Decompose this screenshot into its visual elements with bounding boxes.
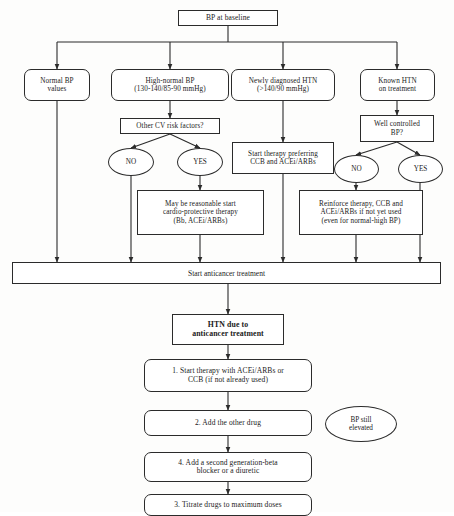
node-step-4-add-beta-blocker-or-diuretic[interactable]: 4. Add a second generation-beta blocker …: [144, 452, 312, 482]
edge-decision1-to-yes: [170, 134, 200, 148]
node-label: May be reasonable start cardio-protectiv…: [163, 200, 238, 224]
node-label: 2. Add the other drug: [195, 419, 261, 427]
node-label: 1. Start therapy with ACEi/ARBs or CCB (…: [172, 367, 284, 384]
node-label: BP still elevated: [349, 416, 373, 432]
node-answer-yes-cv-risk[interactable]: YES: [177, 148, 223, 176]
node-reinforce-therapy[interactable]: Reinforce therapy, CCB and ACEi/ARBs if …: [299, 190, 423, 235]
node-label: Other CV risk factors?: [136, 122, 203, 130]
edge-decision2-to-yes: [397, 142, 420, 155]
node-label: NO: [351, 165, 361, 173]
node-label: Reinforce therapy, CCB and ACEi/ARBs if …: [319, 200, 403, 224]
node-label: Start anticancer treatment: [188, 269, 265, 278]
node-well-controlled-bp[interactable]: Well controlled BP?: [360, 115, 434, 142]
node-label: Known HTN on treatment: [378, 77, 417, 93]
node-label: NO: [126, 158, 136, 166]
node-may-be-reasonable-cardio-protective[interactable]: May be reasonable start cardio-protectiv…: [137, 190, 264, 235]
edge-decision1-to-no: [131, 134, 170, 148]
node-label: HTN due to anticancer treatment: [192, 321, 264, 338]
node-label: BP at baseline: [206, 14, 250, 22]
node-newly-diagnosed-htn[interactable]: Newly diagnosed HTN (>140/90 mmHg): [231, 69, 335, 101]
node-bp-at-baseline[interactable]: BP at baseline: [178, 10, 278, 26]
node-high-normal-bp[interactable]: High-normal BP (130-140/85-90 mmHg): [111, 69, 229, 101]
node-start-anticancer-treatment[interactable]: Start anticancer treatment: [12, 262, 441, 284]
node-step-1-start-therapy[interactable]: 1. Start therapy with ACEi/ARBs or CCB (…: [144, 359, 312, 392]
node-htn-due-to-anticancer-treatment[interactable]: HTN due to anticancer treatment: [172, 314, 284, 345]
node-label: Well controlled BP?: [374, 120, 420, 136]
node-known-htn-on-treatment[interactable]: Known HTN on treatment: [360, 69, 435, 101]
node-label: YES: [414, 165, 428, 173]
edge-decision2-to-no: [356, 142, 397, 155]
node-label: YES: [193, 158, 207, 166]
node-step-3-titrate-drugs[interactable]: 3. Titrate drugs to maximum doses: [144, 494, 312, 516]
node-label: Newly diagnosed HTN (>140/90 mmHg): [249, 77, 318, 93]
node-bp-still-elevated[interactable]: BP still elevated: [325, 406, 397, 442]
node-label: 4. Add a second generation-beta blocker …: [178, 459, 278, 476]
node-step-2-add-other-drug[interactable]: 2. Add the other drug: [144, 410, 312, 436]
node-label: Normal BP values: [40, 77, 73, 93]
node-label: Start therapy preferring CCB and ACEi/AR…: [248, 150, 318, 166]
node-start-therapy-preferring[interactable]: Start therapy preferring CCB and ACEi/AR…: [232, 142, 334, 174]
node-normal-bp[interactable]: Normal BP values: [24, 69, 90, 101]
node-answer-yes-well-controlled[interactable]: YES: [398, 155, 443, 183]
node-label: High-normal BP (130-140/85-90 mmHg): [134, 77, 205, 93]
node-label: 3. Titrate drugs to maximum doses: [174, 501, 281, 509]
node-other-cv-risk-factors[interactable]: Other CV risk factors?: [120, 118, 220, 134]
node-answer-no-well-controlled[interactable]: NO: [334, 155, 379, 183]
node-answer-no-cv-risk[interactable]: NO: [108, 148, 154, 176]
